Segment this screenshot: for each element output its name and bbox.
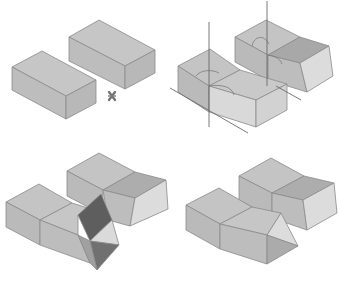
panel-1	[12, 20, 155, 119]
panel-4	[186, 158, 337, 264]
panel-3	[6, 153, 168, 270]
figure-canvas	[0, 0, 340, 294]
panel-2	[170, 1, 333, 133]
cross-marker-icon	[108, 92, 116, 100]
